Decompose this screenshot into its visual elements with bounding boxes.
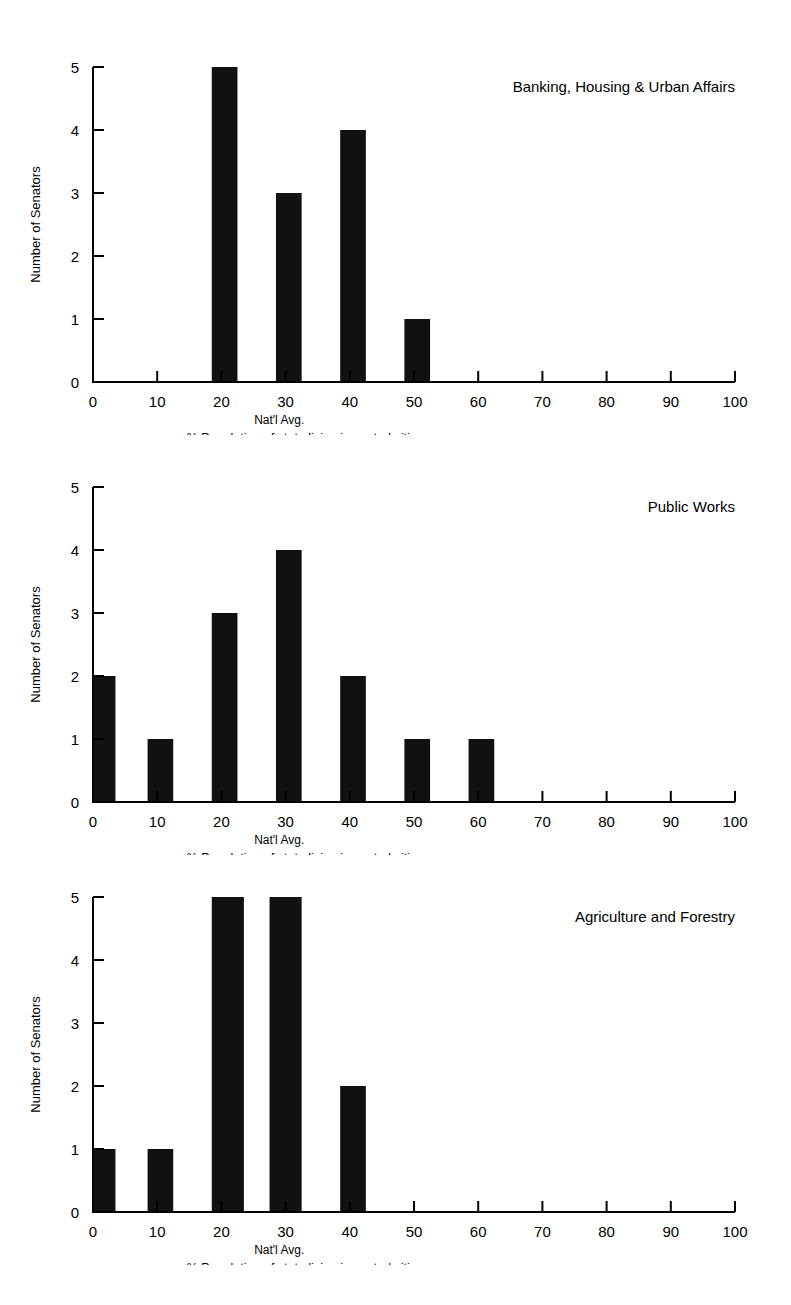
bar xyxy=(404,319,430,382)
chart-panel-banking: 0123450102030405060708090100Nat'l Avg.% … xyxy=(0,0,791,435)
y-tick-label: 0 xyxy=(71,1204,79,1221)
x-tick-label: 50 xyxy=(406,1223,423,1240)
chart-panel-public-works: 0123450102030405060708090100Nat'l Avg.% … xyxy=(0,420,791,855)
x-tick-label: 90 xyxy=(662,1223,679,1240)
x-tick-label: 30 xyxy=(277,813,294,830)
x-tick-label: 10 xyxy=(149,1223,166,1240)
x-tick-label: 60 xyxy=(470,1223,487,1240)
bar xyxy=(276,193,302,382)
y-tick-label: 4 xyxy=(71,542,79,559)
bar xyxy=(340,1086,366,1212)
y-tick-label: 5 xyxy=(71,479,79,496)
panel-title: Agriculture and Forestry xyxy=(575,908,736,925)
y-tick-label: 3 xyxy=(71,185,79,202)
x-tick-label: 0 xyxy=(89,393,97,410)
panel-title: Public Works xyxy=(648,498,735,515)
y-tick-label: 3 xyxy=(71,605,79,622)
x-tick-label: 60 xyxy=(470,393,487,410)
bar xyxy=(93,1149,115,1212)
x-tick-label: 100 xyxy=(722,1223,747,1240)
x-tick-label: 30 xyxy=(277,1223,294,1240)
y-tick-label: 2 xyxy=(71,668,79,685)
x-axis-caption: % Population of state living in central … xyxy=(187,1261,423,1265)
x-tick-label: 20 xyxy=(213,1223,230,1240)
plot-area-0: 0123450102030405060708090100Nat'l Avg.% … xyxy=(0,0,791,435)
x-tick-label: 90 xyxy=(662,813,679,830)
x-tick-label: 0 xyxy=(89,1223,97,1240)
y-tick-label: 1 xyxy=(71,311,79,328)
x-tick-label: 100 xyxy=(722,813,747,830)
y-axis-ticks: 012345 xyxy=(71,59,104,391)
x-tick-label: 0 xyxy=(89,813,97,830)
bar xyxy=(404,739,430,802)
x-tick-label: 90 xyxy=(662,393,679,410)
x-tick-label: 10 xyxy=(149,393,166,410)
natl-avg-label: Nat'l Avg. xyxy=(254,1243,304,1257)
bar xyxy=(148,1149,174,1212)
y-tick-label: 2 xyxy=(71,1078,79,1095)
x-tick-label: 50 xyxy=(406,813,423,830)
x-tick-label: 20 xyxy=(213,393,230,410)
x-tick-label: 80 xyxy=(598,393,615,410)
bar xyxy=(340,676,366,802)
y-tick-label: 4 xyxy=(71,952,79,969)
x-tick-label: 70 xyxy=(534,1223,551,1240)
x-tick-label: 40 xyxy=(341,813,358,830)
y-tick-label: 3 xyxy=(71,1015,79,1032)
y-tick-label: 0 xyxy=(71,374,79,391)
y-axis-label: Number of Senators xyxy=(28,586,43,703)
bar xyxy=(212,613,238,802)
y-tick-label: 0 xyxy=(71,794,79,811)
x-tick-label: 60 xyxy=(470,813,487,830)
x-tick-label: 10 xyxy=(149,813,166,830)
chart-panel-agriculture: 0123450102030405060708090100Nat'l Avg.% … xyxy=(0,830,791,1265)
bar xyxy=(212,897,244,1212)
bar xyxy=(148,739,174,802)
y-axis-label: Number of Senators xyxy=(28,996,43,1113)
x-tick-label: 80 xyxy=(598,813,615,830)
x-tick-label: 80 xyxy=(598,1223,615,1240)
bar xyxy=(212,67,238,382)
y-tick-label: 2 xyxy=(71,248,79,265)
bar xyxy=(469,739,495,802)
x-tick-label: 100 xyxy=(722,393,747,410)
bars-group xyxy=(93,550,494,802)
y-tick-label: 5 xyxy=(71,889,79,906)
x-tick-label: 50 xyxy=(406,393,423,410)
x-tick-label: 70 xyxy=(534,813,551,830)
y-tick-label: 1 xyxy=(71,1141,79,1158)
x-tick-label: 30 xyxy=(277,393,294,410)
plot-area-2: 0123450102030405060708090100Nat'l Avg.% … xyxy=(0,830,791,1265)
panel-title: Banking, Housing & Urban Affairs xyxy=(513,78,735,95)
y-tick-label: 1 xyxy=(71,731,79,748)
x-tick-label: 40 xyxy=(341,1223,358,1240)
x-axis-ticks: 0102030405060708090100 xyxy=(89,1201,748,1240)
plot-area-1: 0123450102030405060708090100Nat'l Avg.% … xyxy=(0,420,791,855)
bars-group xyxy=(93,897,366,1212)
x-tick-label: 20 xyxy=(213,813,230,830)
bars-group xyxy=(212,67,430,382)
bar xyxy=(270,897,302,1212)
y-tick-label: 5 xyxy=(71,59,79,76)
chart-page: { "page": { "background": "#ffffff", "in… xyxy=(0,0,791,1305)
bar xyxy=(276,550,302,802)
y-tick-label: 4 xyxy=(71,122,79,139)
x-tick-label: 70 xyxy=(534,393,551,410)
x-tick-label: 40 xyxy=(341,393,358,410)
axis-spine xyxy=(93,897,735,1212)
bar xyxy=(340,130,366,382)
y-axis-label: Number of Senators xyxy=(28,166,43,283)
